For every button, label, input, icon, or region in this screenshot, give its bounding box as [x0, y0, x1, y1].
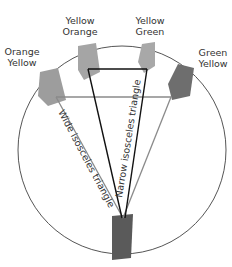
label-yellow-green-line2: Green	[136, 26, 165, 37]
label-orange-yellow-line2: Yellow	[6, 57, 36, 68]
label-yellow-orange-line1: Yellow	[64, 15, 94, 26]
label-yellow-orange-line2: Orange	[62, 26, 97, 37]
swatch-green-yellow	[168, 64, 194, 100]
label-yellow-green-line1: Yellow	[134, 15, 164, 26]
label-orange-yellow-line1: Orange	[4, 46, 39, 57]
label-green-yellow-line1: Green	[199, 47, 228, 58]
swatch-orange-yellow	[38, 68, 66, 106]
label-green-yellow-line2: Yellow	[197, 58, 227, 69]
swatch-bottom	[112, 214, 133, 260]
color-wheel-diagram: Orange Yellow Yellow Orange Yellow Green…	[0, 0, 232, 267]
